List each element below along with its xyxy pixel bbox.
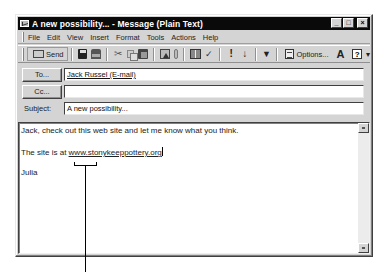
minimize-button[interactable]: _ <box>331 18 342 28</box>
menu-format[interactable]: Format <box>116 33 140 42</box>
scroll-down-button[interactable] <box>358 243 369 253</box>
menu-tools[interactable]: Tools <box>147 33 165 42</box>
toolbar-separator <box>219 48 221 61</box>
window-title: A new possibility... - Message (Plain Te… <box>32 19 203 29</box>
low-importance-icon[interactable]: ↓ <box>240 49 250 59</box>
font-icon[interactable]: A <box>337 49 347 59</box>
paste-icon[interactable] <box>138 49 148 59</box>
save-icon[interactable] <box>78 49 88 59</box>
envelope-icon <box>20 20 29 27</box>
menu-grip-handle[interactable] <box>22 32 24 42</box>
cc-row: Cc... <box>18 84 370 99</box>
subject-field[interactable]: A new possibility... <box>64 102 364 115</box>
message-body-text[interactable]: Jack, check out this web site and let me… <box>21 126 355 178</box>
maximize-button[interactable]: □ <box>343 18 354 28</box>
menu-bar: File Edit View Insert Format Tools Actio… <box>18 31 370 44</box>
message-window: A new possibility... - Message (Plain Te… <box>15 14 373 257</box>
toolbar-separator <box>276 48 278 61</box>
vertical-scrollbar[interactable] <box>358 123 369 253</box>
toolbar-separator <box>153 48 155 61</box>
to-field[interactable]: Jack Russel (E-mail) <box>64 68 364 81</box>
toolbar-grip-handle[interactable] <box>22 48 24 61</box>
toolbar-separator <box>71 48 73 61</box>
to-row: To... Jack Russel (E-mail) <box>18 67 370 82</box>
message-body[interactable]: Jack, check out this web site and let me… <box>18 122 370 254</box>
send-icon <box>33 50 44 58</box>
website-link[interactable]: www.stonykeeppottery.org <box>69 148 162 157</box>
body-line-2-prefix: The site is at <box>21 148 69 157</box>
standard-toolbar: Send ✂ ✓ ! ↓ ▼ Options... A ? ▾ <box>18 45 370 63</box>
insert-file-icon[interactable] <box>160 49 170 59</box>
send-label: Send <box>46 50 64 59</box>
cut-icon[interactable]: ✂ <box>113 49 123 59</box>
toolbar-overflow-chevron-icon[interactable]: ▾ <box>366 50 370 59</box>
attach-icon[interactable] <box>174 49 178 59</box>
options-icon <box>285 49 294 59</box>
signature: Julia <box>21 168 355 178</box>
close-button[interactable]: × <box>357 18 368 28</box>
options-button[interactable]: Options... <box>281 47 330 61</box>
menu-help[interactable]: Help <box>203 33 218 42</box>
subject-row: Subject: A new possibility... <box>18 101 370 116</box>
address-book-icon[interactable] <box>190 49 201 59</box>
body-line-2: The site is at www.stonykeeppottery.org <box>21 147 355 157</box>
menu-actions[interactable]: Actions <box>171 33 196 42</box>
toolbar-separator <box>183 48 185 61</box>
print-icon[interactable] <box>91 49 101 59</box>
menu-edit[interactable]: Edit <box>47 33 60 42</box>
subject-label: Subject: <box>24 102 51 116</box>
title-bar[interactable]: A new possibility... - Message (Plain Te… <box>18 17 370 30</box>
options-label: Options... <box>296 50 328 59</box>
menu-view[interactable]: View <box>67 33 83 42</box>
cc-button[interactable]: Cc... <box>22 85 62 99</box>
window-controls: _ □ × <box>331 18 368 28</box>
help-icon[interactable]: ? <box>352 49 362 59</box>
to-button[interactable]: To... <box>22 68 62 82</box>
scroll-up-button[interactable] <box>358 123 369 133</box>
cc-field[interactable] <box>64 85 364 98</box>
check-names-icon[interactable]: ✓ <box>205 49 215 59</box>
send-button[interactable]: Send <box>27 47 68 61</box>
toolbar-separator <box>255 48 257 61</box>
high-importance-icon[interactable]: ! <box>226 49 236 59</box>
toolbar-separator <box>106 48 108 61</box>
text-cursor <box>162 147 163 156</box>
copy-icon[interactable] <box>127 50 135 58</box>
callout-line <box>85 166 86 272</box>
menu-file[interactable]: File <box>28 33 40 42</box>
flag-icon[interactable]: ▼ <box>262 49 272 59</box>
body-line-1: Jack, check out this web site and let me… <box>21 126 355 136</box>
menu-insert[interactable]: Insert <box>90 33 109 42</box>
